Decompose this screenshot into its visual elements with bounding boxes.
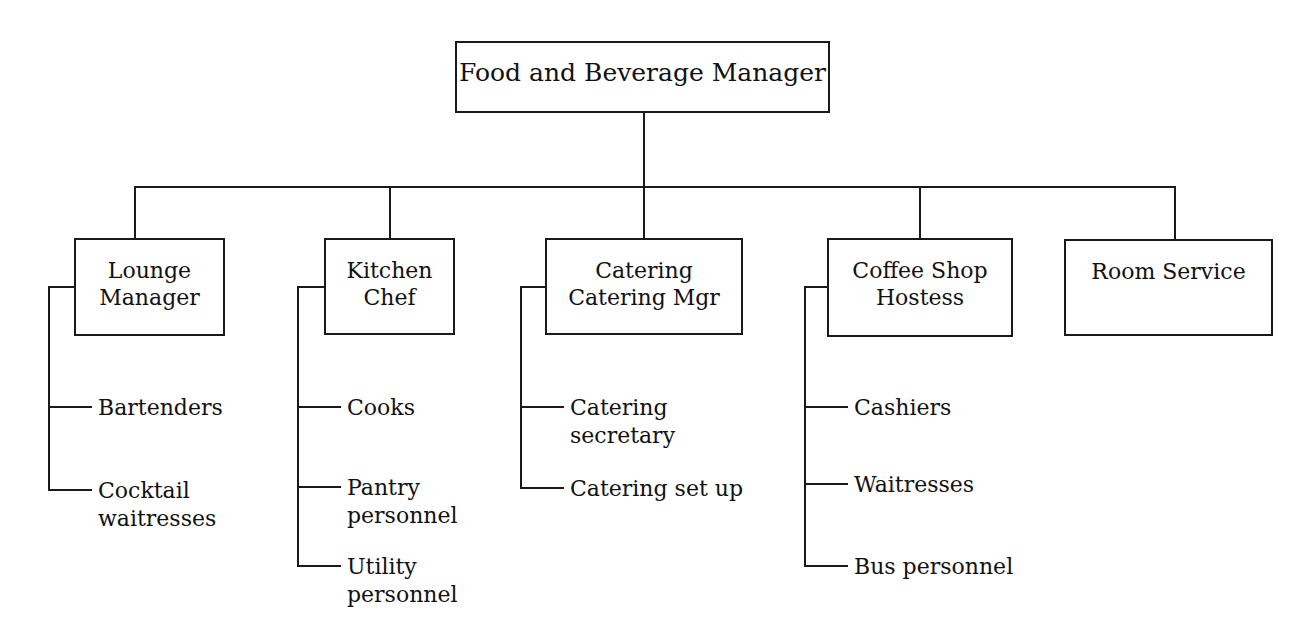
connector-catering-leaf-stub-1 [520,406,564,408]
leaf-label-utility-personnel[interactable]: Utility personnel [347,553,458,609]
connector-kitchen-trunk [297,286,299,567]
connector-lounge-leaf-stub-2 [48,489,92,491]
node-label-food-and-beverage-manager: Food and Beverage Manager [459,43,826,88]
leaf-label-catering-set-up[interactable]: Catering set up [570,475,743,503]
node-label-kitchen-chef-line2: Chef [363,285,415,310]
leaf-label-pantry-personnel[interactable]: Pantry personnel [347,474,458,530]
leaf-label-bartenders[interactable]: Bartenders [98,394,223,422]
connector-kitchen-side-stub [297,286,326,288]
node-box-lounge-manager[interactable]: LoungeManager [74,238,225,336]
leaf-label-bus-personnel[interactable]: Bus personnel [854,553,1013,581]
leaf-label-catering-secretary[interactable]: Catering secretary [570,394,675,450]
connector-drop-lounge [134,186,136,238]
node-label-catering-line1: Catering [595,258,693,283]
node-label-lounge-manager: LoungeManager [99,240,200,312]
node-label-kitchen-chef-line1: Kitchen [347,258,433,283]
connector-coffee-shop-leaf-stub-1 [804,406,848,408]
leaf-label-cocktail-waitresses[interactable]: Cocktail waitresses [98,477,216,533]
node-label-lounge-manager-line1: Lounge [108,258,191,283]
connector-drop-coffee-shop [919,186,921,238]
org-chart: Food and Beverage Manager LoungeManager … [0,0,1314,630]
node-label-coffee-shop: Coffee ShopHostess [852,240,987,312]
node-box-kitchen-chef[interactable]: KitchenChef [324,238,455,335]
connector-coffee-shop-leaf-stub-3 [804,565,848,567]
node-label-lounge-manager-line2: Manager [99,285,200,310]
connector-lounge-leaf-stub-1 [48,406,92,408]
node-box-catering[interactable]: CateringCatering Mgr [545,238,743,335]
connector-root-stem [643,113,645,187]
connector-coffee-shop-side-stub [804,286,829,288]
connector-drop-room-service [1174,186,1176,239]
node-box-room-service[interactable]: Room Service [1064,239,1273,336]
connector-lounge-side-stub [48,286,76,288]
leaf-label-cooks[interactable]: Cooks [347,394,415,422]
connector-kitchen-leaf-stub-1 [297,406,341,408]
leaf-label-cashiers[interactable]: Cashiers [854,394,951,422]
connector-drop-catering [643,186,645,238]
connector-main-bus [134,186,1176,188]
connector-coffee-shop-leaf-stub-2 [804,483,848,485]
connector-kitchen-leaf-stub-3 [297,565,341,567]
node-label-room-service: Room Service [1091,241,1245,285]
leaf-label-waitresses[interactable]: Waitresses [854,471,974,499]
connector-lounge-trunk [48,286,50,491]
node-label-coffee-shop-line2: Hostess [876,285,964,310]
node-box-coffee-shop[interactable]: Coffee ShopHostess [827,238,1013,337]
connector-kitchen-leaf-stub-2 [297,486,341,488]
node-label-coffee-shop-line1: Coffee Shop [852,258,987,283]
connector-catering-side-stub [520,286,547,288]
node-label-kitchen-chef: KitchenChef [347,240,433,312]
connector-catering-trunk [520,286,522,489]
connector-coffee-shop-trunk [804,286,806,567]
node-label-catering: CateringCatering Mgr [568,240,720,312]
node-box-food-and-beverage-manager[interactable]: Food and Beverage Manager [455,41,830,113]
node-label-catering-line2: Catering Mgr [568,285,720,310]
connector-catering-leaf-stub-2 [520,487,564,489]
connector-drop-kitchen [389,186,391,238]
